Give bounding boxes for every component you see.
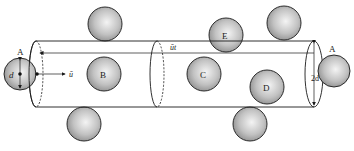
mid-ellipse-front	[150, 41, 157, 107]
mid-ellipse-back	[157, 41, 164, 107]
label-d-sphere: D	[263, 83, 270, 93]
sphere-bottom-right	[233, 107, 267, 141]
label-a-left: A	[17, 47, 24, 57]
sphere-a-center-dot	[18, 72, 22, 76]
label-a-right: A	[329, 44, 336, 54]
sphere-a-right	[318, 55, 350, 87]
diagram-canvas: A d ū ūt 2d A B E C D	[0, 0, 354, 151]
sphere-bottom-left	[67, 107, 101, 141]
label-d: d	[9, 70, 14, 80]
label-ut: ūt	[170, 43, 177, 52]
label-e: E	[222, 31, 228, 41]
sphere-top-right	[267, 6, 301, 40]
sphere-top-left	[88, 7, 122, 41]
label-b: B	[100, 70, 106, 80]
collision-cylinder-diagram: A d ū ūt 2d A B E C D	[0, 0, 354, 151]
label-c: C	[200, 70, 206, 80]
label-2d: 2d	[311, 74, 319, 83]
label-u: ū	[69, 70, 73, 79]
